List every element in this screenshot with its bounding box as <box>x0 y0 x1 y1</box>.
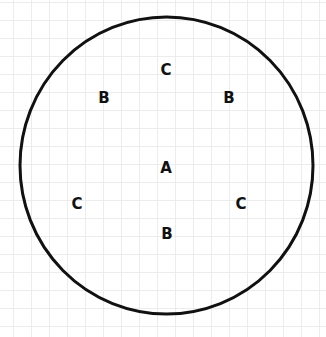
label-c-right: C <box>235 197 246 212</box>
label-c-top: C <box>160 63 171 78</box>
label-b-bottom: B <box>161 227 172 242</box>
grid-canvas: C B B A C C B <box>0 0 326 337</box>
label-b-right: B <box>223 91 234 106</box>
label-c-left: C <box>71 197 82 212</box>
label-b-left: B <box>98 91 109 106</box>
label-a-center: A <box>160 161 172 176</box>
